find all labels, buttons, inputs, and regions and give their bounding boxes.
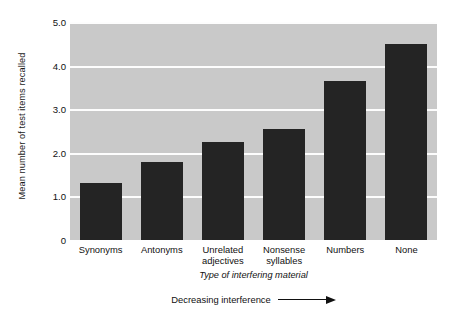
bar-slot [192,22,253,240]
y-tick-label: 2.0 [34,147,66,158]
bar-slot [70,22,131,240]
decreasing-interference-annotation: Decreasing interference [70,294,437,305]
y-axis-title: Mean number of test items recalled [17,20,27,232]
plot-area [70,22,437,240]
bar[interactable] [80,183,122,240]
bars-layer [70,22,437,240]
bar[interactable] [324,81,366,240]
x-axis-title: Type of interfering material [70,270,437,280]
bar-slot [376,22,437,240]
x-tick-label: Unrelatedadjectives [192,244,253,267]
y-tick-label: 3.0 [34,104,66,115]
x-tick-label: None [376,244,437,267]
x-axis-tick-labels: SynonymsAntonymsUnrelatedadjectivesNonse… [70,244,437,267]
bar-slot [315,22,376,240]
x-tick-label: Antonyms [131,244,192,267]
bar[interactable] [141,162,183,240]
y-tick-label: 5.0 [34,17,66,28]
annotation-text: Decreasing interference [171,294,271,305]
y-tick-label: 4.0 [34,60,66,71]
bar-chart-figure: Mean number of test items recalled 01.02… [0,0,462,318]
y-axis-tick-labels: 01.02.03.04.05.0 [34,22,66,240]
x-tick-label: Nonsensesyllables [254,244,315,267]
bar[interactable] [202,142,244,240]
bar[interactable] [385,44,427,240]
x-tick-label: Synonyms [70,244,131,267]
bar-slot [131,22,192,240]
right-arrow-icon [278,295,336,304]
x-tick-label: Numbers [315,244,376,267]
y-tick-label: 1.0 [34,191,66,202]
bar-slot [254,22,315,240]
bar[interactable] [263,129,305,240]
y-tick-label: 0 [34,235,66,246]
